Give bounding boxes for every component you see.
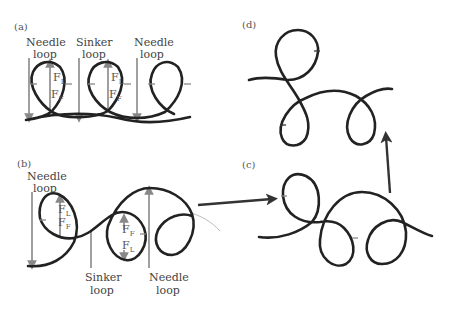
yarn-loops-d (249, 30, 392, 146)
panel-d-label: (d) (242, 19, 256, 30)
needle-loop-label-a2b: loop (140, 48, 164, 61)
panel-c: (c) (242, 159, 432, 266)
panel-d: (d) (242, 19, 392, 146)
needle-loop-label-a1b: loop (33, 48, 57, 61)
sinker-loop-label-bb: loop (90, 284, 114, 297)
force-fl-b2: FL (122, 239, 135, 254)
force-ff-b2: FF (122, 223, 135, 238)
knit-loop-diagram: (a) Needle loop Sinker loop Needle loop … (0, 0, 449, 309)
yarn-loops-b (28, 188, 194, 266)
panel-b-label: (b) (17, 158, 31, 169)
flow-arrow-c-to-d-icon (386, 137, 390, 193)
flow-arrow-b-to-c-icon (198, 199, 272, 205)
panel-a-label: (a) (14, 21, 28, 32)
needle-loop-label-b2: Needle (149, 271, 189, 284)
force-ff-a1: FF (51, 88, 64, 103)
force-ff-b1: FF (58, 216, 71, 231)
panel-a: (a) Needle loop Sinker loop Needle loop … (14, 21, 191, 122)
yarn-loops-c (259, 174, 432, 265)
panel-c-label: (c) (242, 159, 256, 170)
sinker-loop-label-b: Sinker (85, 271, 122, 284)
panel-b: (b) Needle loop Sinker loop Needle loop … (17, 158, 220, 297)
needle-loop-label-b2b: loop (156, 284, 180, 297)
sinker-loop-label-ab: loop (82, 48, 106, 61)
